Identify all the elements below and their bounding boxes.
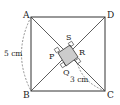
label-b: B (23, 90, 30, 100)
dashed-arc-ab (22, 17, 32, 91)
right-angle-marker-r (75, 58, 81, 64)
label-d: D (107, 10, 114, 20)
label-a: A (22, 10, 30, 20)
geometry-diagram: A D B C P S R Q 5 cm 3 cm (0, 0, 120, 105)
label-p: P (49, 52, 55, 61)
label-c: C (107, 90, 114, 100)
label-s: S (66, 33, 71, 42)
label-segment-length: 3 cm (70, 75, 88, 84)
label-q: Q (63, 68, 70, 77)
label-side-length: 5 cm (4, 49, 22, 58)
label-r: R (79, 48, 86, 57)
inner-square-pqrs (58, 45, 78, 66)
